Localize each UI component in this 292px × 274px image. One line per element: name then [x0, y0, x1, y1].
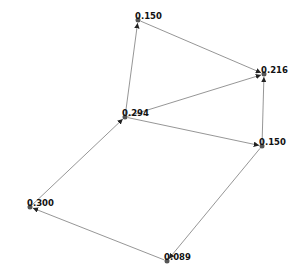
edges-layer	[32, 21, 264, 260]
node-label: 0.300	[27, 198, 54, 208]
node-label: 0.150	[135, 11, 162, 21]
graph-node: 0.216	[261, 65, 288, 77]
edge-n_lowright-to-n_right	[262, 77, 264, 143]
edge-n_bottom-to-n_left	[33, 208, 164, 260]
network-graph: 0.1500.2160.2940.1500.3000.089	[0, 0, 292, 274]
node-label: 0.089	[164, 252, 191, 262]
node-label: 0.150	[259, 137, 286, 147]
edge-n_top-to-n_right	[141, 21, 261, 73]
node-label: 0.294	[122, 108, 149, 118]
edge-n_center-to-n_lowright	[128, 118, 259, 146]
graph-node: 0.150	[135, 11, 162, 23]
node-label: 0.216	[261, 65, 288, 75]
edge-n_left-to-n_center	[32, 119, 123, 205]
graph-node: 0.150	[259, 137, 286, 149]
edge-n_lowright-to-n_bottom	[169, 148, 260, 258]
graph-node: 0.089	[164, 252, 191, 264]
graph-node: 0.294	[122, 108, 149, 120]
edge-n_center-to-n_top	[125, 23, 137, 114]
graph-node: 0.300	[27, 198, 54, 210]
nodes-layer: 0.1500.2160.2940.1500.3000.089	[27, 11, 288, 264]
